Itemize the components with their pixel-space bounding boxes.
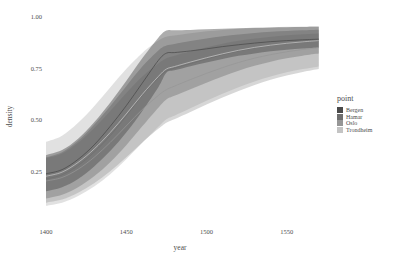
legend-item-label: Trondheim [346,127,372,134]
x-tick-label: 1550 [273,228,301,235]
density-year-chart: density year 0.250.500.751.00 1400145015… [0,0,395,259]
legend-item-label: Bergen [346,107,363,114]
legend-title: point [337,94,393,104]
x-axis-title: year [150,243,210,252]
legend-item-trondheim: Trondheim [337,127,393,134]
x-tick-label: 1450 [112,228,140,235]
x-tick-label: 1400 [32,228,60,235]
legend: point BergenHamarOsloTrondheim [337,94,393,133]
legend-item-label: Oslo [346,120,357,127]
legend-item-oslo: Oslo [337,120,393,127]
legend-item-label: Hamar [346,114,362,121]
y-axis-title: density [5,97,14,137]
legend-swatch-icon [337,107,343,113]
plot-area [0,0,395,259]
legend-swatch-icon [337,114,343,120]
legend-items: BergenHamarOsloTrondheim [337,107,393,133]
y-tick-label: 0.25 [22,168,42,175]
legend-swatch-icon [337,127,343,133]
legend-swatch-icon [337,120,343,126]
y-tick-label: 1.00 [22,13,42,20]
legend-item-hamar: Hamar [337,114,393,121]
y-tick-label: 0.50 [22,116,42,123]
y-tick-label: 0.75 [22,65,42,72]
x-tick-label: 1500 [192,228,220,235]
legend-item-bergen: Bergen [337,107,393,114]
